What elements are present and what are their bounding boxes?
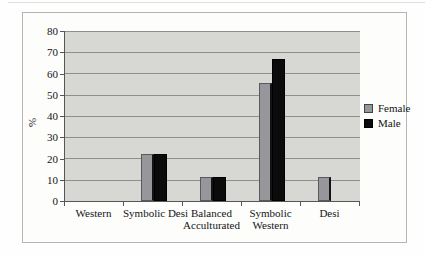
y-tick-mark-10 <box>60 180 64 181</box>
y-tick-label-30: 30 <box>30 131 58 143</box>
y-tick-label-40: 40 <box>30 110 58 122</box>
bar-male-1 <box>154 154 167 201</box>
gridline-40 <box>65 116 360 117</box>
y-tick-label-20: 20 <box>30 153 58 165</box>
category-label-line: Balanced <box>182 207 241 219</box>
x-tick-mark-0 <box>64 202 65 206</box>
bar-female-3 <box>259 83 272 201</box>
bar-male-2 <box>213 177 226 201</box>
category-label-line: Acculturated <box>182 219 241 231</box>
acculturation-bar-chart-figure: % 01020304050607080WesternSymbolic DesiB… <box>0 0 425 257</box>
y-tick-mark-60 <box>60 74 64 75</box>
y-tick-mark-70 <box>60 52 64 53</box>
y-tick-label-10: 10 <box>30 174 58 186</box>
y-tick-mark-40 <box>60 116 64 117</box>
y-tick-label-50: 50 <box>30 89 58 101</box>
chart-area: % 01020304050607080WesternSymbolic DesiB… <box>22 12 407 243</box>
category-label-0: Western <box>64 207 123 219</box>
gridline-70 <box>65 52 360 53</box>
category-label-line: Western <box>241 219 300 231</box>
scan-artifact-line <box>8 2 425 3</box>
x-tick-mark-3 <box>241 202 242 206</box>
category-label-4: Desi <box>300 207 359 219</box>
legend-item-male: Male <box>364 116 410 131</box>
y-tick-label-60: 60 <box>30 68 58 80</box>
legend-marker-female <box>364 104 373 113</box>
category-label-line: Symbolic Desi <box>123 207 182 219</box>
y-tick-mark-30 <box>60 137 64 138</box>
gridline-20 <box>65 158 360 159</box>
legend-label-male: Male <box>378 118 401 129</box>
y-tick-label-80: 80 <box>30 25 58 37</box>
gridline-50 <box>65 95 360 96</box>
gridline-30 <box>65 137 360 138</box>
legend-item-female: Female <box>364 101 410 116</box>
x-tick-mark-5 <box>359 202 360 206</box>
gridline-60 <box>65 73 360 74</box>
bar-female-1 <box>141 154 154 201</box>
y-tick-label-70: 70 <box>30 46 58 58</box>
category-label-2: BalancedAcculturated <box>182 207 241 231</box>
legend-marker-male <box>364 119 373 128</box>
category-label-line: Symbolic <box>241 207 300 219</box>
bar-male-3 <box>272 59 285 201</box>
category-label-1: Symbolic Desi <box>123 207 182 219</box>
y-tick-mark-20 <box>60 159 64 160</box>
category-label-line: Western <box>64 207 123 219</box>
gridline-80 <box>65 31 360 32</box>
y-tick-mark-50 <box>60 95 64 96</box>
x-tick-mark-1 <box>123 202 124 206</box>
category-label-line: Desi <box>300 207 359 219</box>
x-tick-mark-4 <box>300 202 301 206</box>
y-tick-label-0: 0 <box>30 195 58 207</box>
plot-area <box>64 31 360 202</box>
category-label-3: SymbolicWestern <box>241 207 300 231</box>
legend-label-female: Female <box>378 103 410 114</box>
x-tick-mark-2 <box>182 202 183 206</box>
bar-female-2 <box>200 177 213 201</box>
bar-female-4 <box>318 177 331 201</box>
legend: FemaleMale <box>364 101 410 131</box>
y-tick-mark-80 <box>60 31 64 32</box>
